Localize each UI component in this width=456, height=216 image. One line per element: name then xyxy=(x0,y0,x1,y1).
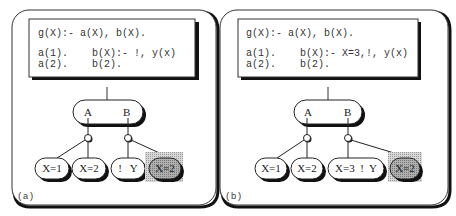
leaf-label: X=3 ! Y xyxy=(335,162,377,174)
goal-a-label: A xyxy=(304,106,312,118)
panel-b: g(X):- a(X), b(X). a(1). b(X):- X=3,!, y… xyxy=(220,10,450,207)
goal-b-label: B xyxy=(123,106,130,118)
choice-point-a xyxy=(304,135,311,142)
code-line-3-left: a(2). xyxy=(38,59,68,70)
goal-a-label: A xyxy=(84,106,92,118)
code-line-3-right: b(2). xyxy=(300,59,330,70)
diagram-canvas: g(X):- a(X), b(X). a(1). b(X):- !, y(x) … xyxy=(0,0,456,216)
panel-caption: (b) xyxy=(225,191,242,202)
code-line-2-right: b(X):- !, y(x) xyxy=(92,48,176,59)
panel-a: g(X):- a(X), b(X). a(1). b(X):- !, y(x) … xyxy=(12,10,218,207)
leaf-label: X=2 xyxy=(155,162,175,174)
leaf-label: X=1 xyxy=(42,162,62,174)
code-line-3-right: b(2). xyxy=(92,59,122,70)
panel-caption: (a) xyxy=(17,191,34,202)
code-line-2-right: b(X):- X=3,!, y(x) xyxy=(300,48,408,59)
choice-point-b xyxy=(345,135,352,142)
goal-b-label: B xyxy=(344,106,351,118)
leaf-label: ! Y xyxy=(118,162,138,174)
leaf-label: X=2 xyxy=(79,162,99,174)
leaf-label: X=2 xyxy=(395,162,415,174)
code-line-3-left: a(2). xyxy=(246,59,276,70)
code-line-1: g(X):- a(X), b(X). xyxy=(38,28,146,39)
choice-point-a xyxy=(85,135,92,142)
leaf-label: X=1 xyxy=(261,162,281,174)
code-line-2-left: a(1). xyxy=(246,48,276,59)
choice-point-b xyxy=(125,135,132,142)
leaf-label: X=2 xyxy=(297,162,317,174)
code-line-1: g(X):- a(X), b(X). xyxy=(246,28,354,39)
code-line-2-left: a(1). xyxy=(38,48,68,59)
